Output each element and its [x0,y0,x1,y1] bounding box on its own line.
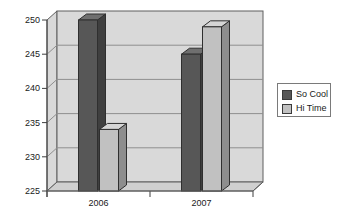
legend-item-so-cool: So Cool [282,88,330,101]
chart-figure: 22523023524024525020062007 So Cool Hi Ti… [0,0,337,217]
y-axis-label: 245 [25,49,40,59]
so-cool-bar-2007-front [182,54,201,191]
legend-swatch-hi-time [282,104,292,114]
x-axis-label: 2006 [88,198,108,208]
y-axis-label: 235 [25,118,40,128]
side-wall [47,11,57,191]
so-cool-bar-2006-front [79,20,98,191]
legend-label-so-cool: So Cool [296,88,328,101]
legend-item-hi-time: Hi Time [282,102,330,115]
y-axis-label: 225 [25,186,40,196]
legend-label-hi-time: Hi Time [296,102,327,115]
y-axis-label: 250 [25,15,40,25]
hi-time-bar-2006-side [119,123,127,191]
y-axis-label: 240 [25,83,40,93]
y-axis-label: 230 [25,152,40,162]
hi-time-bar-2007-front [203,27,222,191]
hi-time-bar-2006-front [100,129,119,191]
chart-legend: So Cool Hi Time [277,83,331,117]
x-axis-label: 2007 [191,198,211,208]
legend-swatch-so-cool [282,90,292,100]
hi-time-bar-2007-side [222,21,230,191]
